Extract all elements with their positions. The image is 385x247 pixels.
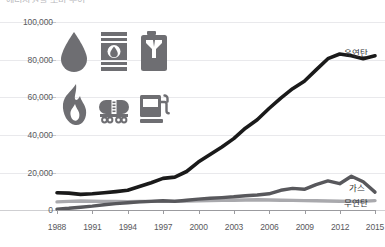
xtick-mark-2003 [234,210,235,214]
icon-row-gas [58,80,170,128]
gridline-40000 [0,135,385,136]
gridline-100000 [0,22,385,23]
series-line-anthracite [57,200,375,202]
ytick-label-80000: 80,000 [1,55,53,65]
xtick-label-1988: 1988 [48,222,66,232]
xtick-mark-2006 [269,210,270,214]
xtick-mark-2015 [375,210,376,214]
xtick-label-1991: 1991 [83,222,101,232]
fuel-pump-icon [138,82,170,128]
xtick-label-2012: 2012 [331,222,349,232]
xtick-mark-1991 [92,210,93,214]
icon-row-oil [58,26,170,74]
tanker-truck-icon [98,82,130,128]
xtick-mark-2009 [305,210,306,214]
gridline-20000 [0,173,385,174]
xtick-mark-1994 [128,210,129,214]
xtick-label-2009: 2009 [296,222,314,232]
series-label-anthracite: 무연탄 [344,196,367,208]
xtick-label-2000: 2000 [189,222,207,232]
ytick-label-40000: 40,000 [1,130,53,140]
oil-barrel-icon [98,28,130,74]
energy-icon-cluster [58,26,170,130]
xtick-mark-2012 [340,210,341,214]
xtick-mark-1997 [163,210,164,214]
ytick-label-0: 0 [1,205,53,215]
xtick-label-2015: 2015 [366,222,384,232]
x-axis [57,210,375,211]
jerry-can-icon [138,28,170,74]
xtick-label-1994: 1994 [119,222,137,232]
flame-icon [58,82,90,128]
energy-consumption-chart: 에너지원별 소비 추이 100,000 80,000 60,000 40,000… [0,0,385,247]
xtick-label-2003: 2003 [225,222,243,232]
xtick-mark-2000 [199,210,200,214]
series-line-gas [57,176,375,209]
chart-title-truncated: 에너지원별 소비 추이 [6,0,85,3]
series-label-bituminous: 유연탄 [344,46,367,58]
ytick-label-20000: 20,000 [1,168,53,178]
xtick-mark-1988 [57,210,58,214]
ytick-label-100000: 100,000 [1,17,53,27]
xtick-label-2006: 2006 [260,222,278,232]
xtick-label-1997: 1997 [154,222,172,232]
series-label-gas: 가스 [349,181,365,193]
oil-droplet-icon [58,28,90,74]
ytick-label-60000: 60,000 [1,92,53,102]
